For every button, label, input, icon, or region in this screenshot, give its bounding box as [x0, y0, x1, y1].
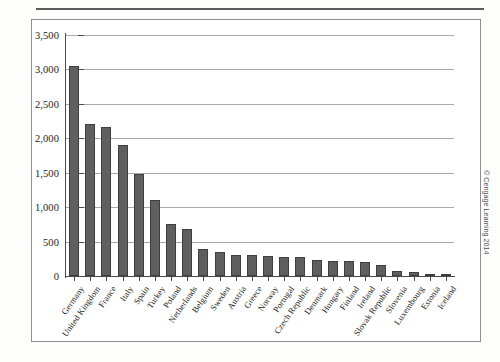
x-tick-mark — [284, 276, 285, 281]
bar — [312, 260, 322, 276]
y-tick-mark — [78, 104, 84, 105]
y-tick-mark — [78, 242, 84, 243]
y-tick-label: 2,000 — [35, 133, 59, 144]
bar — [85, 124, 95, 276]
y-tick-mark — [78, 69, 84, 70]
y-tick-label: 2,500 — [35, 98, 59, 109]
y-tick-mark — [78, 207, 84, 208]
bar — [328, 261, 338, 276]
gridline — [66, 138, 454, 139]
x-tick-mark — [74, 276, 75, 281]
y-tick-mark — [78, 138, 84, 139]
bar — [344, 261, 354, 276]
x-tick-mark — [300, 276, 301, 281]
x-tick-mark — [414, 276, 415, 281]
x-tick-mark — [268, 276, 269, 281]
x-tick-mark — [203, 276, 204, 281]
bar — [295, 257, 305, 276]
x-tick-mark — [252, 276, 253, 281]
page-top-rule — [36, 8, 484, 10]
bar — [101, 127, 111, 276]
y-tick-label: 0 — [54, 271, 59, 282]
x-tick-mark — [446, 276, 447, 281]
x-tick-mark — [349, 276, 350, 281]
y-tick-label: 3,500 — [35, 30, 59, 41]
y-tick-label: 3,000 — [35, 64, 59, 75]
x-tick-mark — [187, 276, 188, 281]
y-tick-label: 500 — [43, 236, 59, 247]
bar — [231, 255, 241, 276]
y-tick-label: 1,500 — [35, 167, 59, 178]
bar — [166, 224, 176, 276]
bar — [247, 255, 257, 276]
bar — [118, 145, 128, 276]
figure-container: 3,5003,0002,5002,0001,5001,0005000 Germa… — [0, 0, 500, 362]
x-tick-mark — [171, 276, 172, 281]
bar — [376, 265, 386, 276]
gridline — [66, 35, 454, 36]
gridline — [66, 104, 454, 105]
bar — [182, 229, 192, 277]
bar — [215, 252, 225, 276]
x-tick-mark — [365, 276, 366, 281]
x-tick-mark — [155, 276, 156, 281]
copyright-text: © Cengage Learning 2014 — [482, 170, 491, 254]
x-tick-mark — [397, 276, 398, 281]
plot-area — [66, 35, 454, 276]
x-tick-mark — [381, 276, 382, 281]
copyright-credit: © Cengage Learning 2014 — [484, 170, 498, 310]
y-tick-mark — [78, 173, 84, 174]
bar — [360, 262, 370, 276]
bar — [263, 256, 273, 276]
bar — [150, 200, 160, 276]
x-tick-mark — [236, 276, 237, 281]
y-tick-label: 1,000 — [35, 202, 59, 213]
gridline — [66, 69, 454, 70]
x-tick-mark — [90, 276, 91, 281]
y-tick-mark — [78, 276, 84, 277]
x-tick-mark — [317, 276, 318, 281]
x-tick-mark — [333, 276, 334, 281]
x-tick-mark — [220, 276, 221, 281]
x-tick-mark — [123, 276, 124, 281]
bar — [279, 257, 289, 276]
x-tick-mark — [430, 276, 431, 281]
x-tick-mark — [139, 276, 140, 281]
bar — [69, 66, 79, 276]
x-tick-mark — [106, 276, 107, 281]
y-tick-mark — [78, 35, 84, 36]
bar — [134, 174, 144, 276]
bar — [198, 249, 208, 276]
